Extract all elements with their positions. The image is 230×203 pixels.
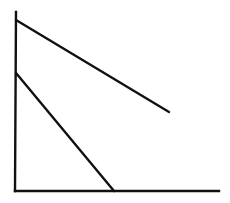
upper-line <box>16 20 169 112</box>
diagram-canvas <box>0 0 230 203</box>
y-axis <box>15 12 16 191</box>
lower-line <box>16 73 114 191</box>
